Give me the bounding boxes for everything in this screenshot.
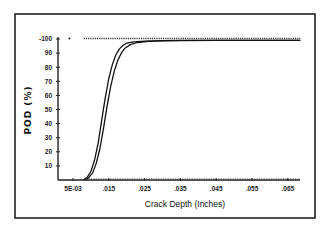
pod-curve-upper xyxy=(84,40,301,180)
hit-point xyxy=(68,38,70,40)
y-axis-title: POD (%) xyxy=(23,85,33,134)
chart-frame xyxy=(15,14,315,218)
y-tick-label: 90 xyxy=(45,49,53,56)
x-tick-label: .025 xyxy=(138,185,151,192)
x-tick-label: .015 xyxy=(102,185,115,192)
y-tick-label: 50 xyxy=(45,106,53,113)
y-tick-label: -100 xyxy=(39,35,52,42)
x-tick-label: .045 xyxy=(210,185,223,192)
pod-curve-lower xyxy=(86,40,301,180)
pod-chart: 5E-03.015.025.035.045.055.065 1020304050… xyxy=(0,0,330,231)
y-tick-label: 20 xyxy=(45,148,53,155)
x-axis-title: Crack Depth (Inches) xyxy=(145,199,225,209)
y-tick-label: 80 xyxy=(45,64,53,71)
x-tick-label: 5E-03 xyxy=(64,185,82,192)
y-axis-ticks: 102030405060708090-100 xyxy=(39,35,60,169)
y-tick-label: 40 xyxy=(45,120,53,127)
x-tick-label: .065 xyxy=(281,185,294,192)
y-tick-label: 60 xyxy=(45,92,53,99)
y-tick-label: 30 xyxy=(45,134,53,141)
y-tick-label: 10 xyxy=(45,162,53,169)
y-tick-label: 70 xyxy=(45,78,53,85)
x-tick-label: .055 xyxy=(246,185,259,192)
x-tick-label: .035 xyxy=(174,185,187,192)
plot-area xyxy=(58,37,300,180)
